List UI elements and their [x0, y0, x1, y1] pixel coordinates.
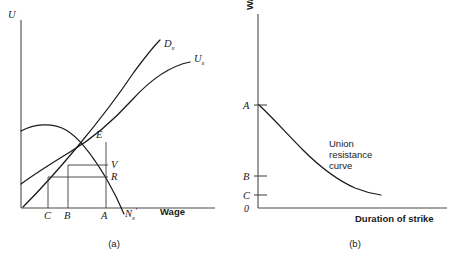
panel-b-origin-label: 0 [244, 203, 249, 214]
panel-a-caption: (a) [84, 238, 144, 249]
panel-b-y-tick-label-b: B [243, 171, 250, 182]
panel-a-point-label-r: R [110, 171, 118, 182]
panel-b-chart: Wage Duration of strike A B C 0 Union re… [225, 0, 455, 238]
panel-a-label-employer-concession-curve: Nx' [124, 206, 138, 221]
panel-a-x-tick-label-b: B [64, 210, 71, 221]
panel-b-annotation-line-1: Union [329, 138, 354, 149]
figure-container: U Wage Dx Ux Nx' E V R C B A [0, 0, 455, 268]
panel-b-y-tick-label-c: C [243, 190, 251, 201]
panel-a-x-axis-label: Wage [160, 206, 185, 217]
panel-a-point-label-v: V [111, 159, 119, 170]
panel-b-x-axis-label: Duration of strike [355, 213, 434, 224]
panel-a-chart: U Wage Dx Ux Nx' E V R C B A [0, 0, 225, 238]
panel-a-point-label-e: E [95, 129, 103, 140]
panel-a-curve-union-utility [21, 62, 190, 184]
panel-b-annotation-line-3: curve [329, 160, 352, 171]
panel-b-annotation-line-2: resistance [329, 149, 372, 160]
panel-b-caption: (b) [325, 238, 385, 249]
panel-b-y-tick-label-a: A [242, 100, 250, 111]
panel-a-curve-employer-concession [21, 125, 124, 214]
panel-a-curve-demand [23, 40, 160, 207]
panel-a-label-union-utility-curve: Ux [194, 53, 205, 66]
panel-a-x-tick-label-a: A [100, 210, 108, 221]
panel-a-x-tick-label-c: C [44, 210, 52, 221]
panel-a-y-axis-label: U [8, 9, 17, 20]
panel-a-label-demand-curve: Dx [163, 38, 175, 51]
panel-b-y-axis-label: Wage [244, 0, 255, 10]
